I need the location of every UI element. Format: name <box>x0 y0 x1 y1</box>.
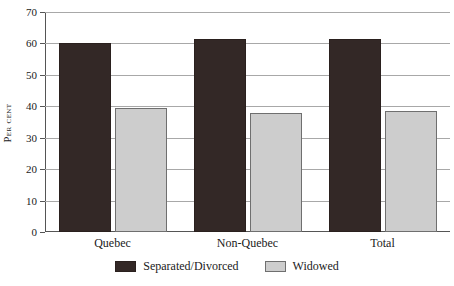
y-axis-tick <box>40 138 45 139</box>
bar <box>59 43 111 232</box>
y-axis-tick <box>40 201 45 202</box>
x-axis-category-label: Total <box>370 236 395 251</box>
y-axis-tick <box>40 106 45 107</box>
y-axis-tick <box>40 43 45 44</box>
legend-swatch-icon <box>115 261 136 272</box>
y-axis-tick <box>40 75 45 76</box>
chart-legend: Separated/DivorcedWidowed <box>0 259 454 274</box>
y-axis-tick-label: 60 <box>26 37 37 49</box>
legend-label: Separated/Divorced <box>143 259 238 274</box>
bar <box>329 39 381 232</box>
bar-chart-figure: Per cent 010203040506070 QuebecNon-Quebe… <box>0 0 454 286</box>
y-axis-tick-label: 0 <box>32 226 38 238</box>
y-axis-tick <box>40 169 45 170</box>
x-axis-category-label: Non-Quebec <box>217 236 278 251</box>
legend-item[interactable]: Widowed <box>265 259 339 274</box>
y-axis-tick-label: 30 <box>26 132 37 144</box>
legend-label: Widowed <box>293 259 339 274</box>
bar <box>385 111 437 232</box>
y-axis-tick <box>40 12 45 13</box>
legend-swatch-icon <box>265 261 286 272</box>
plot-area: 010203040506070 <box>45 12 450 232</box>
bar <box>115 108 167 232</box>
y-axis-title: Per cent <box>2 78 13 168</box>
bar <box>194 39 246 232</box>
bar <box>250 113 302 232</box>
y-axis-tick-label: 70 <box>26 6 37 18</box>
y-axis-tick-label: 50 <box>26 69 37 81</box>
y-axis-tick <box>40 232 45 233</box>
y-axis-tick-label: 10 <box>26 195 37 207</box>
y-axis-tick-label: 20 <box>26 163 37 175</box>
x-axis-category-label: Quebec <box>94 236 131 251</box>
gridline <box>45 12 450 13</box>
y-axis-tick-label: 40 <box>26 100 37 112</box>
y-axis-line <box>45 12 46 232</box>
legend-item[interactable]: Separated/Divorced <box>115 259 238 274</box>
